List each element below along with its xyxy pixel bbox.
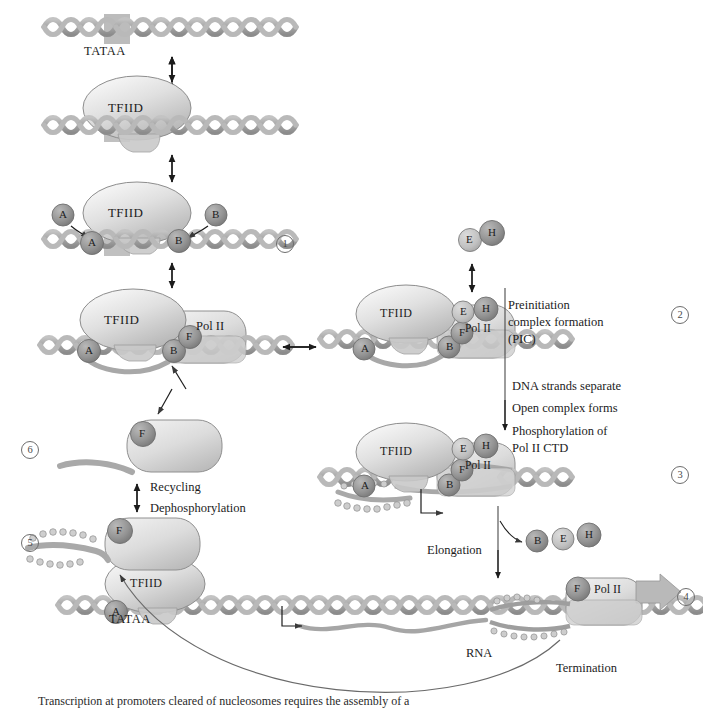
pic-annotation-line1: Preinitiation (508, 297, 570, 314)
factor-h-free-label: H (488, 226, 496, 238)
elongation-label: Elongation (427, 542, 482, 559)
factor-b-open-label: B (446, 478, 453, 490)
tfiid-label-row2: TFIID (108, 100, 143, 116)
dephosphorylation-label: Dephosphorylation (150, 500, 246, 517)
step-number-2: 2 (671, 306, 689, 324)
dna-strand-top (44, 14, 296, 44)
step-number-4: 4 (677, 588, 695, 606)
tfiid-complex-row2 (44, 76, 296, 152)
recycling-label: Recycling (150, 479, 201, 496)
step1-complex (44, 182, 296, 256)
polii-label-pic: Pol II (465, 322, 491, 334)
polii-label-elong: Pol II (594, 582, 621, 597)
rna-strand (300, 620, 486, 631)
factor-b-row4-label: B (170, 344, 177, 356)
factor-a-row4-label: A (85, 344, 93, 356)
tfiid-label-pic: TFIID (380, 306, 412, 321)
factor-f-step6-label: F (139, 427, 145, 439)
step-number-6: 6 (21, 441, 39, 459)
pic-annotation-line3: (PIC) (508, 331, 536, 348)
rna-label: RNA (466, 645, 492, 662)
phosphorylation-label-line1: Phosphorylation of (512, 423, 607, 440)
factor-f-open-label: F (459, 463, 465, 475)
tfiid-label-step-polii: TFIID (104, 312, 139, 328)
factor-e-free-label: E (466, 233, 473, 245)
factor-b-bound-label: B (175, 234, 182, 246)
polii-label-row4: Pol II (196, 319, 224, 334)
polii-label-open: Pol II (465, 459, 491, 471)
factor-e-released-label: E (560, 532, 567, 544)
factor-a-open-label: A (361, 479, 369, 491)
diagram-graphics (0, 0, 703, 708)
factor-f-pic-label: F (459, 326, 465, 338)
factor-a-bound-label: A (88, 236, 96, 248)
dna-strands-separate-label: DNA strands separate (512, 378, 621, 395)
factor-b-pic-label: B (446, 340, 453, 352)
open-complex-forms-label: Open complex forms (512, 400, 618, 417)
figure-canvas: TATAA TATAA TFIID TFIID TFIID TFIID TFII… (0, 0, 703, 708)
factor-e-pic-label: E (460, 305, 467, 317)
factor-f-elong-label: F (574, 582, 580, 594)
figure-caption: Transcription at promoters cleared of nu… (38, 694, 409, 708)
factor-h-pic-label: H (482, 302, 490, 314)
factor-h-released-label: H (585, 528, 593, 540)
factor-b-released-label: B (534, 534, 541, 546)
release-arrow (500, 521, 522, 542)
factor-a-pic-label: A (361, 342, 369, 354)
ctd-tail-plain (60, 462, 132, 472)
factor-a-elong-label: A (112, 605, 120, 617)
tataa-label-top: TATAA (84, 44, 126, 59)
phosphorylation-label-line2: Pol II CTD (512, 440, 568, 457)
factor-h-open-label: H (482, 439, 490, 451)
factor-b-free-label: B (212, 208, 219, 220)
factor-a-free-label: A (59, 208, 67, 220)
step-number-3: 3 (671, 466, 689, 484)
termination-label: Termination (556, 660, 617, 677)
step-number-1: 1 (276, 235, 294, 253)
polii-recruitment-complex (40, 289, 292, 372)
tfiid-label-step1: TFIID (108, 205, 143, 221)
bent-dna-pointer (172, 366, 186, 389)
ctd-tail-phospho (28, 545, 108, 560)
direction-arrow-icon (636, 574, 681, 610)
tfiid-label-open: TFIID (380, 444, 412, 459)
pic-annotation-line2: complex formation (508, 314, 603, 331)
factor-e-open-label: E (460, 442, 467, 454)
factor-f-row4-label: F (186, 330, 192, 342)
tfiid-label-elong: TFIID (130, 576, 162, 591)
return-arrow-to-step6 (158, 389, 172, 414)
step-number-5: 5 (21, 534, 39, 552)
phosphorylated-polii (27, 518, 200, 570)
factor-f-step5-label: F (116, 524, 122, 536)
